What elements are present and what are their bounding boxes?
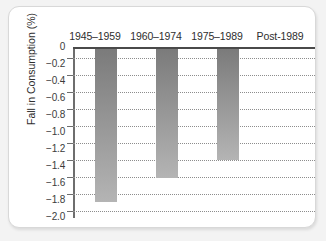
y-tick-10: −2.0 xyxy=(17,212,65,222)
bar-1960-1974[interactable] xyxy=(156,47,178,178)
bar-1945-1959[interactable] xyxy=(95,47,117,202)
x-axis-line xyxy=(73,47,315,49)
y-tick-3: −0.6 xyxy=(17,93,65,103)
y-tick-8: −1.6 xyxy=(17,178,65,188)
chart-figure: Fall in Consumption (%) 0 −0.2 −0.4 −0.6… xyxy=(0,0,326,241)
y-tick-7: −1.4 xyxy=(17,161,65,171)
bar-1975-1989[interactable] xyxy=(217,47,239,160)
y-tick-6: −1.2 xyxy=(17,144,65,154)
y-tick-0: 0 xyxy=(17,42,65,52)
y-tick-4: −0.8 xyxy=(17,110,65,120)
chart-card: Fall in Consumption (%) 0 −0.2 −0.4 −0.6… xyxy=(8,6,316,228)
y-tick-9: −1.8 xyxy=(17,195,65,205)
y-tick-1: −0.2 xyxy=(17,59,65,69)
gridline xyxy=(73,211,315,212)
y-tick-2: −0.4 xyxy=(17,76,65,86)
category-label-post-1989: Post-1989 xyxy=(235,30,325,42)
y-tick-5: −1.0 xyxy=(17,127,65,137)
plot-area: 1945–1959 1960–1974 1975–1989 Post-1989 xyxy=(73,47,315,217)
